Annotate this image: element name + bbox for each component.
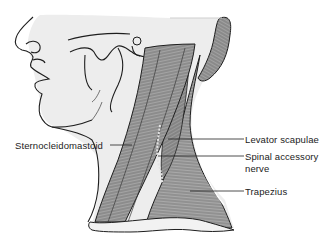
label-levator-scapulae: Levator scapulae (245, 134, 319, 145)
label-spinal-accessory-nerve-line2: nerve (245, 163, 269, 174)
label-trapezius: Trapezius (245, 186, 287, 197)
neck-anatomy-illustration (0, 0, 335, 243)
label-spinal-accessory-nerve-line1: Spinal accessory (245, 151, 318, 162)
label-sternocleidomastoid: Sternocleidomastoid (15, 140, 103, 151)
anatomy-figure: Sternocleidomastoid Levator scapulae Spi… (0, 0, 335, 243)
